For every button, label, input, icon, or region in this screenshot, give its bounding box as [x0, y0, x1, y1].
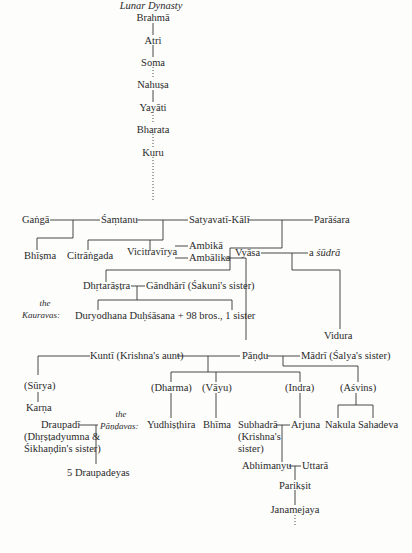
node-subhadra-note-2: sister): [238, 443, 264, 455]
node-janamejaya: Janamejaya: [271, 504, 320, 516]
label-kauravas: Kauravas:: [22, 309, 60, 321]
node-kauravas-children: Duryodhana Duḥśāsana + 98 bros., 1 siste…: [75, 310, 255, 322]
sudra-word: śūdrā: [316, 247, 340, 258]
node-indra: (Indra): [285, 382, 314, 394]
diagram-title: Lunar Dynasty: [120, 0, 183, 12]
node-subhadra: Subhadrā: [238, 419, 278, 431]
node-citrangada: Citrāṅgada: [67, 250, 113, 262]
node-atri: Atri: [145, 35, 162, 47]
node-sudra: a śūdrā: [309, 247, 340, 259]
node-soma: Soma: [141, 57, 165, 69]
connector-lines: [0, 0, 412, 553]
node-bharata: Bharata: [137, 124, 170, 136]
node-satyavati: Satyavatī-Kālī: [189, 214, 250, 226]
node-parasara: Parāśara: [314, 214, 350, 226]
node-vicitravirya: Vicitravīrya: [127, 246, 177, 258]
node-pandu: Pāṇḍu: [242, 350, 268, 362]
node-ambalika: Ambālika: [189, 252, 230, 264]
node-draupadi-note-1: (Dhṛṣṭadyumna &: [24, 431, 100, 443]
node-yudhisthira: Yudhiṣṭhira: [147, 419, 195, 431]
node-nahusa: Nahuṣa: [137, 79, 169, 91]
node-abhimanyu: Abhimanyu: [242, 460, 292, 472]
node-santanu: Śaṃtanu: [101, 214, 138, 226]
node-draupadeyas: 5 Draupadeyas: [67, 467, 130, 479]
node-draupadi: Draupadī: [41, 419, 80, 431]
node-ganga: Gaṅgā: [22, 214, 49, 226]
label-pandavas-the: the: [116, 408, 127, 420]
node-bhisma: Bhīṣma: [24, 250, 56, 262]
node-vyasa: Vyāsa: [235, 247, 260, 259]
node-vidura: Vidura: [324, 330, 353, 342]
node-karna: Karṇa: [26, 402, 52, 414]
node-arjuna: Arjuna: [291, 419, 320, 431]
node-nakula-sahadeva: Nakula Sahadeva: [325, 419, 398, 431]
node-bhima: Bhīma: [203, 419, 231, 431]
node-pariksit: Parikṣit: [279, 480, 311, 492]
label-pandavas: Pāṇḍavas:: [100, 420, 139, 432]
node-kunti: Kuntī (Krishna's aunt): [90, 350, 183, 362]
node-dharma: (Dharma): [151, 382, 192, 394]
node-subhadra-note-1: (Krishna's: [238, 431, 281, 443]
node-surya: (Sūrya): [24, 380, 56, 392]
label-kauravas-the: the: [40, 297, 51, 309]
node-draupadi-note-2: Śikhaṇḍin's sister): [24, 443, 101, 455]
node-dhrtarastra: Dhṛtarāṣṭra: [83, 280, 130, 292]
node-brahma: Brahmā: [136, 12, 169, 24]
node-yayati: Yayāti: [140, 102, 167, 114]
node-gandhari: Gāndhārī (Śakuni's sister): [146, 280, 255, 292]
node-kuru: Kuru: [142, 147, 164, 159]
node-vayu: (Vāyu): [202, 382, 232, 394]
node-asvins: (Aśvins): [340, 382, 376, 394]
node-uttara: Uttarā: [302, 460, 328, 472]
node-madri: Mādrī (Śalya's sister): [301, 350, 390, 362]
node-ambika: Ambikā: [189, 240, 223, 252]
